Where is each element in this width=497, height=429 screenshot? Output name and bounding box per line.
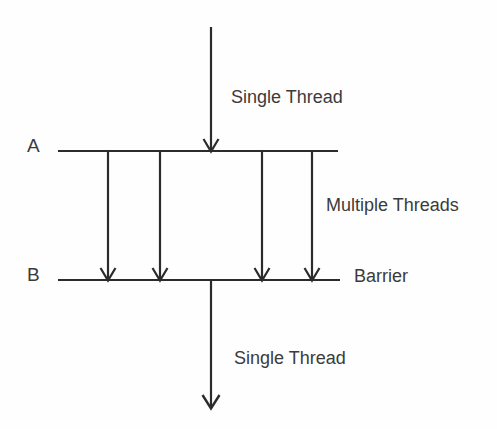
thread-arrow-4 — [305, 151, 320, 281]
thread-arrow-1 — [101, 151, 116, 281]
thread-arrow-3 — [255, 151, 270, 281]
label-point-a: A — [27, 136, 40, 156]
label-multiple-threads: Multiple Threads — [326, 195, 459, 215]
label-single-thread-bottom: Single Thread — [234, 348, 346, 368]
outgoing-single-thread-arrow — [203, 280, 220, 409]
thread-arrow-2 — [153, 151, 168, 281]
label-point-b: B — [27, 265, 40, 285]
label-barrier: Barrier — [354, 266, 408, 286]
incoming-single-thread-arrow — [204, 27, 219, 152]
label-single-thread-top: Single Thread — [231, 87, 343, 107]
diagram-canvas: A B Single Thread Multiple Threads Barri… — [0, 0, 497, 429]
